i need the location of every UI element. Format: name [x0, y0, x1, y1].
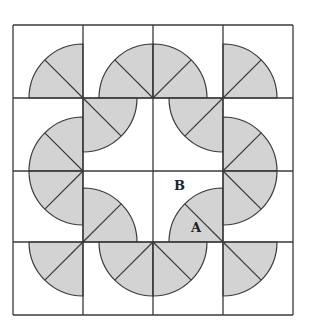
label-a: A: [190, 220, 202, 235]
quarter-circle-tiling-diagram: B A: [0, 0, 311, 329]
label-b: B: [174, 178, 185, 193]
